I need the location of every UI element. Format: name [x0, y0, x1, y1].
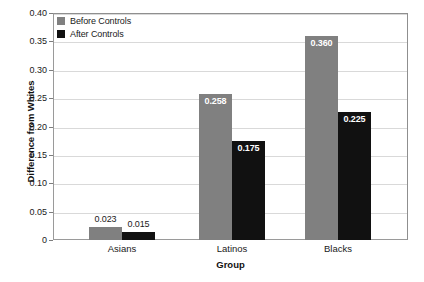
y-axis-tick-label: 0.20	[29, 122, 47, 132]
x-axis-category-labels: AsiansLatinosBlacks	[53, 243, 408, 259]
legend-label: After Controls	[70, 29, 124, 39]
bar-latinos-before: 0.258	[199, 94, 232, 240]
bar-value-label: 0.360	[310, 38, 332, 48]
bars-layer: 0.0230.0150.2580.1750.3600.225	[53, 13, 408, 240]
y-axis-tick-label: 0.40	[29, 8, 47, 18]
bar-value-label: 0.023	[94, 214, 116, 224]
bar-asians-before: 0.023	[89, 227, 122, 240]
y-axis-tick-label: 0.35	[29, 36, 47, 46]
y-axis-tick-label: 0.10	[29, 178, 47, 188]
x-axis-label-asians: Asians	[108, 243, 137, 254]
bar-asians-after: 0.015	[122, 232, 155, 241]
y-axis-tick-label: 0	[42, 235, 47, 245]
chart-legend: Before ControlsAfter Controls	[57, 13, 131, 39]
bar-value-label: 0.225	[343, 114, 365, 124]
bar-blacks-after: 0.225	[338, 112, 371, 240]
bar-chart: Difference from Whites 00.050.100.150.20…	[0, 0, 424, 282]
legend-swatch-icon	[57, 30, 65, 38]
y-axis-tick-label: 0.30	[29, 65, 47, 75]
legend-item-before-controls[interactable]: Before Controls	[57, 15, 131, 26]
x-axis-label-latinos: Latinos	[217, 243, 248, 254]
legend-item-after-controls[interactable]: After Controls	[57, 28, 131, 39]
x-axis-title: Group	[53, 259, 408, 270]
bar-value-label: 0.015	[127, 219, 149, 229]
y-axis-tick-label: 0.25	[29, 93, 47, 103]
y-axis-tick-labels: 00.050.100.150.200.250.300.350.40	[0, 0, 53, 282]
bar-value-label: 0.175	[237, 143, 259, 153]
legend-label: Before Controls	[70, 16, 131, 26]
bar-latinos-after: 0.175	[232, 141, 265, 240]
y-axis-tick-mark	[49, 240, 53, 241]
bar-value-label: 0.258	[204, 96, 226, 106]
bar-blacks-before: 0.360	[305, 36, 338, 240]
x-axis-label-blacks: Blacks	[324, 243, 352, 254]
y-axis-tick-label: 0.15	[29, 150, 47, 160]
y-axis-tick-label: 0.05	[29, 207, 47, 217]
legend-swatch-icon	[57, 17, 65, 25]
